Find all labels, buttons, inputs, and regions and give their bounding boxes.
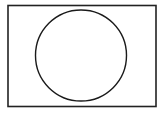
diagram-canvas: [0, 0, 161, 113]
diagram-svg: [0, 0, 161, 113]
inner-circle: [36, 10, 127, 101]
